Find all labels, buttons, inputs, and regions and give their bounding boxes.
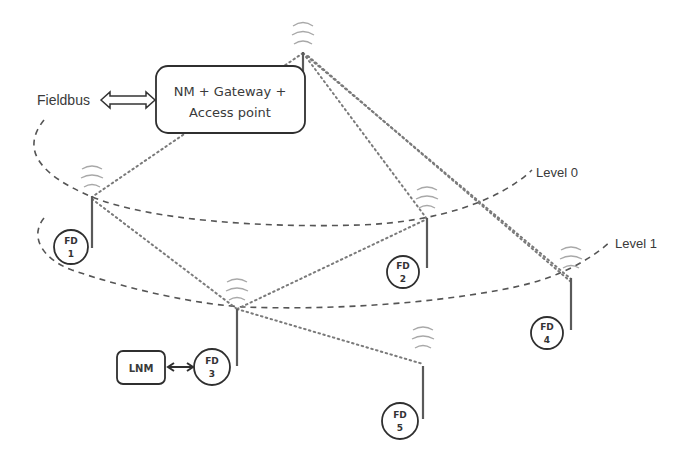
link-gateway-fd2 <box>303 53 427 219</box>
link-fd1-fd3 <box>92 199 237 309</box>
lnm-fd3-link <box>168 363 193 371</box>
svg-text:3: 3 <box>209 369 215 379</box>
gateway-box: NM + Gateway + Access point <box>156 66 305 133</box>
field-device-fd1: FD 1 <box>54 166 103 264</box>
svg-text:FD: FD <box>540 322 554 332</box>
link-gateway-fd4b <box>308 56 571 282</box>
gateway-label-line2: Access point <box>189 105 271 120</box>
field-device-fd3: FD 3 <box>194 279 248 385</box>
fieldbus-arrow <box>101 92 155 108</box>
svg-text:5: 5 <box>397 423 403 433</box>
svg-text:1: 1 <box>68 249 74 259</box>
level-0-arc <box>34 120 532 226</box>
svg-text:4: 4 <box>544 335 550 345</box>
svg-text:FD: FD <box>64 236 78 246</box>
gateway-label-line1: NM + Gateway + <box>174 84 287 99</box>
link-fd3-fd5 <box>237 309 423 364</box>
field-device-fd4: FD 4 <box>531 247 582 349</box>
network-diagram: Fieldbus NM + Gateway + Access point Lev… <box>0 0 694 467</box>
svg-text:FD: FD <box>393 410 407 420</box>
lnm-box: LNM <box>117 351 165 384</box>
level-1-label: Level 1 <box>615 236 657 251</box>
field-device-fd5: FD 5 <box>382 327 434 439</box>
svg-text:FD: FD <box>205 356 219 366</box>
lnm-label: LNM <box>129 363 154 374</box>
fieldbus-label: Fieldbus <box>37 92 90 108</box>
field-device-fd2: FD 2 <box>387 187 438 288</box>
level-1-arc <box>38 218 610 308</box>
svg-text:FD: FD <box>396 261 410 271</box>
svg-text:2: 2 <box>400 274 406 284</box>
level-0-label: Level 0 <box>536 165 578 180</box>
